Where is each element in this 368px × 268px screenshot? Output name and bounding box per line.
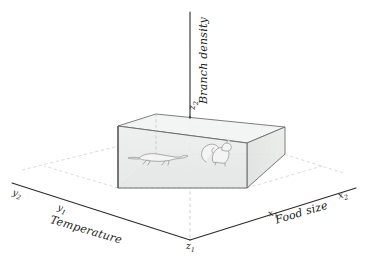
tick-label-z2-sub: 2 bbox=[192, 101, 200, 105]
grid-line-box-left bbox=[44, 166, 118, 188]
niche-volume bbox=[118, 114, 285, 188]
niche-diagram-svg bbox=[0, 0, 368, 268]
axis-label-branch-density: Branch density bbox=[198, 17, 209, 104]
tick-label-z1: z1 bbox=[186, 242, 195, 253]
tick-label-z2-base: z bbox=[187, 105, 197, 110]
tick-label-z2: z2 bbox=[188, 101, 199, 110]
figure-canvas: Branch density z2 z1 Temperature y1 y2 F… bbox=[0, 0, 368, 268]
tick-label-z1-sub: 1 bbox=[191, 246, 195, 254]
